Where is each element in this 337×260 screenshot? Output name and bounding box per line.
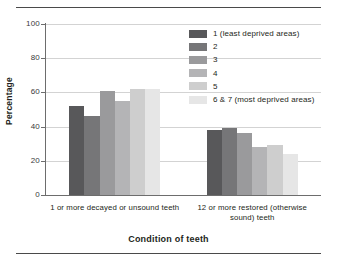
legend-item: 2 — [189, 40, 334, 53]
gridline — [46, 195, 321, 196]
bar — [130, 89, 145, 195]
legend-swatch — [189, 30, 207, 38]
figure-container: 020406080100 Percentage 1 or more decaye… — [0, 0, 337, 260]
bar — [267, 145, 282, 195]
legend-label: 3 — [213, 55, 218, 64]
legend-label: 5 — [213, 82, 218, 91]
gridline — [46, 24, 321, 25]
legend-item: 3 — [189, 53, 334, 66]
bar — [145, 89, 160, 195]
legend-swatch — [189, 43, 207, 51]
legend-label: 1 (least deprived areas) — [213, 29, 299, 38]
y-axis-title: Percentage — [4, 71, 14, 131]
legend-swatch — [189, 56, 207, 64]
y-tick-label: 60 — [10, 88, 40, 96]
legend-swatch — [189, 82, 207, 90]
x-group-label: 12 or more restored (otherwise sound) te… — [187, 203, 317, 223]
legend: 1 (least deprived areas)23456 & 7 (most … — [189, 27, 334, 106]
legend-swatch — [189, 96, 207, 104]
top-rule — [16, 7, 321, 8]
bar — [207, 130, 222, 195]
legend-item: 6 & 7 (most deprived areas) — [189, 93, 334, 106]
bar — [283, 154, 298, 195]
legend-item: 5 — [189, 80, 334, 93]
x-axis-title: Condition of teeth — [0, 234, 337, 244]
bar — [100, 91, 115, 195]
legend-swatch — [189, 69, 207, 77]
bar — [237, 133, 252, 195]
legend-label: 4 — [213, 69, 218, 78]
bottom-rule — [16, 253, 321, 254]
legend-item: 4 — [189, 67, 334, 80]
legend-item: 1 (least deprived areas) — [189, 27, 334, 40]
y-tick-label: 40 — [10, 123, 40, 131]
bar — [84, 116, 99, 195]
bar — [69, 106, 84, 195]
legend-label: 2 — [213, 42, 218, 51]
bar — [222, 128, 237, 195]
y-tick-label: 20 — [10, 157, 40, 165]
y-tick-label: 80 — [10, 54, 40, 62]
bar — [252, 147, 267, 195]
bar — [115, 101, 130, 195]
x-group-label: 1 or more decayed or unsound teeth — [50, 203, 180, 213]
y-tick-label: 100 — [10, 20, 40, 28]
y-tick-label: 0 — [10, 191, 40, 199]
legend-label: 6 & 7 (most deprived areas) — [213, 95, 314, 104]
